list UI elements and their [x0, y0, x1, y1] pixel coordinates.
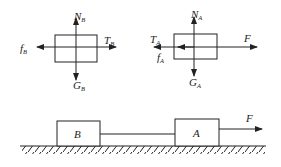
ground-hatching: [22, 146, 265, 154]
label-gravity-a: GA: [189, 76, 201, 89]
applied-force-label: F: [245, 112, 253, 124]
label-friction-b: fB: [20, 42, 27, 55]
physics-diagram: NB TB fB GB NA TA fA GA F B A F: [0, 0, 281, 167]
block-a-label: A: [192, 127, 200, 139]
fbd-block-b: NB TB fB GB: [20, 10, 116, 92]
label-friction-a: fA: [157, 51, 164, 64]
label-tension-b: TB: [104, 34, 114, 47]
label-gravity-b: GB: [73, 79, 85, 92]
label-normal-b: NB: [73, 10, 85, 23]
block-b-label: B: [74, 128, 81, 140]
label-normal-a: NA: [190, 8, 202, 21]
label-tension-a: TA: [150, 33, 160, 46]
label-applied-force-a: F: [243, 32, 251, 44]
scene: B A F: [20, 112, 266, 154]
fbd-block-a: NA TA fA GA F: [150, 8, 257, 89]
